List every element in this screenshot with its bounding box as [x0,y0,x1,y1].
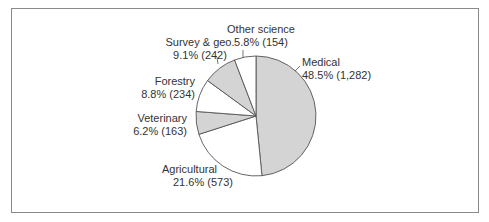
label-medical-value: 48.5% (1,282) [302,69,371,82]
label-other-value: 5.8% (154) [226,36,296,49]
label-veterinary-name: Veterinary [133,112,187,125]
label-forestry-name: Forestry [141,75,195,88]
label-survey-value: 9.1% (242) [160,49,240,62]
label-veterinary: Veterinary 6.2% (163) [133,112,187,138]
label-forestry-value: 8.8% (234) [141,88,195,101]
label-agricultural-value: 21.6% (573) [162,176,233,189]
label-forestry: Forestry 8.8% (234) [141,75,195,101]
label-medical-name: Medical [302,56,371,69]
label-medical: Medical 48.5% (1,282) [302,56,371,82]
label-agricultural-name: Agricultural [162,163,233,176]
label-veterinary-value: 6.2% (163) [133,125,187,138]
label-agricultural: Agricultural 21.6% (573) [162,163,233,189]
leader-line [295,66,300,71]
label-other-science: Other science 5.8% (154) [226,23,296,49]
label-other-name: Other science [226,23,296,36]
